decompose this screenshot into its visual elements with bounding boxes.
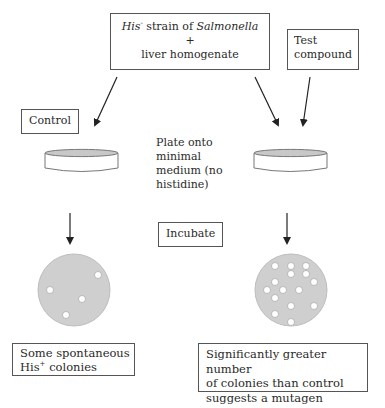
- test-result-box: Significantly greater number of colonies…: [198, 343, 368, 392]
- colonies-text: colonies: [45, 360, 96, 374]
- salmonella-text: Salmonella: [196, 20, 258, 33]
- incubate-box: Incubate: [158, 222, 223, 247]
- his-text: His: [122, 20, 141, 33]
- his-plus-text: His: [20, 360, 40, 374]
- source-line-plus: +: [111, 34, 269, 48]
- control-label: Control: [29, 114, 78, 128]
- source-box: His- strain of Salmonella + liver homoge…: [110, 13, 270, 70]
- incubate-label: Incubate: [166, 227, 222, 241]
- arrow-to-test-plate: [255, 77, 278, 125]
- test-result-line-1: Significantly greater number: [206, 347, 367, 376]
- strain-of-text: strain of: [143, 20, 197, 33]
- arrow-compound-to-test-plate: [303, 77, 310, 125]
- source-line-liver: liver homogenate: [111, 48, 269, 62]
- test-dish-icon: [255, 254, 327, 326]
- control-plate-side-icon: [45, 149, 118, 171]
- test-result-line-2: of colonies than control: [206, 376, 367, 391]
- control-result-line-2: His+ colonies: [20, 360, 134, 374]
- control-dish-icon: [38, 254, 110, 326]
- control-result-line-1: Some spontaneous: [20, 346, 134, 360]
- control-label-box: Control: [21, 109, 79, 134]
- test-compound-line-1: Test: [294, 34, 358, 48]
- arrow-to-control-plate: [95, 77, 117, 125]
- control-result-box: Some spontaneous His+ colonies: [12, 343, 135, 376]
- test-result-line-3: suggests a mutagen: [206, 391, 367, 406]
- plate-step-line-2: minimal: [156, 150, 236, 164]
- test-compound-line-2: compound: [294, 48, 358, 62]
- plate-step-line-3: medium (no: [156, 164, 236, 178]
- plate-step-text: Plate onto minimal medium (no histidine): [156, 136, 236, 192]
- plate-step-line-1: Plate onto: [156, 136, 236, 150]
- test-compound-box: Test compound: [287, 29, 359, 70]
- source-line-1: His- strain of Salmonella: [111, 20, 269, 34]
- test-plate-side-icon: [254, 149, 327, 171]
- plate-step-line-4: histidine): [156, 178, 236, 192]
